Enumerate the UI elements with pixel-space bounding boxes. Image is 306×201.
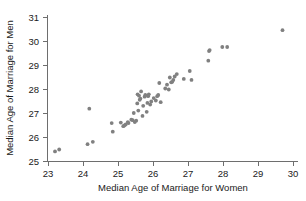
data-point: [132, 111, 136, 115]
data-point: [157, 81, 161, 85]
data-point: [127, 121, 131, 125]
x-tick-label: 25: [113, 168, 124, 179]
data-point: [139, 97, 143, 101]
y-tick-label: 28: [28, 84, 39, 95]
data-point: [208, 48, 212, 52]
data-point: [141, 114, 145, 118]
y-tick-label: 25: [28, 156, 39, 167]
data-point: [175, 72, 179, 76]
data-point: [182, 77, 186, 81]
data-point: [87, 107, 91, 111]
scatter-plot-figure: 25262728293031 2324252627282930 Median A…: [0, 0, 306, 201]
y-axis-title: Median Age of Marriage for Men: [4, 20, 15, 156]
x-axis-title: Median Age of Marriage for Women: [98, 182, 248, 193]
data-point: [139, 90, 143, 94]
y-tick-label: 31: [28, 12, 39, 23]
data-point: [134, 119, 138, 123]
data-point: [53, 150, 57, 154]
data-point: [225, 45, 229, 49]
x-tick-group: 2324252627282930: [43, 161, 299, 179]
data-point: [159, 100, 163, 104]
plot-canvas: 25262728293031 2324252627282930 Median A…: [0, 0, 306, 201]
y-tick-label: 30: [28, 36, 39, 47]
data-point: [135, 102, 139, 106]
data-point: [149, 100, 153, 104]
data-point: [145, 110, 149, 114]
x-tick-label: 23: [43, 168, 54, 179]
data-point: [57, 148, 61, 152]
y-tick-label: 29: [28, 60, 39, 71]
data-point: [154, 99, 158, 103]
data-point: [141, 104, 145, 108]
data-point: [147, 92, 151, 96]
data-point: [136, 109, 140, 113]
x-tick-label: 26: [148, 168, 159, 179]
data-point: [171, 78, 175, 82]
data-point: [91, 140, 95, 144]
x-tick-label: 28: [218, 168, 229, 179]
y-tick-label: 27: [28, 108, 39, 119]
data-point: [111, 130, 115, 134]
data-point: [119, 121, 123, 125]
x-tick-label: 27: [183, 168, 194, 179]
data-point: [86, 142, 90, 146]
x-tick-label: 29: [253, 168, 264, 179]
y-tick-group: 25262728293031: [28, 12, 48, 167]
data-point: [167, 88, 171, 92]
data-point: [188, 69, 192, 73]
data-point: [206, 59, 210, 63]
data-point: [190, 78, 194, 82]
y-axis: 25262728293031: [28, 12, 48, 167]
data-points-layer: [53, 28, 284, 153]
data-point: [281, 28, 285, 32]
data-point: [156, 93, 160, 97]
data-point: [165, 83, 169, 87]
data-point: [163, 87, 167, 91]
x-axis: 2324252627282930: [43, 161, 299, 179]
y-tick-label: 26: [28, 132, 39, 143]
x-tick-label: 30: [288, 168, 299, 179]
data-point: [168, 76, 172, 80]
data-point: [110, 121, 114, 125]
data-point: [220, 45, 224, 49]
x-tick-label: 24: [78, 168, 89, 179]
